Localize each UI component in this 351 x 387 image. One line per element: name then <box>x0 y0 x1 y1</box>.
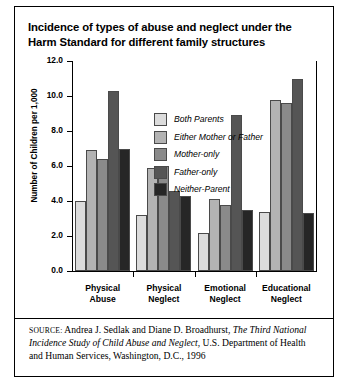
legend-label: Both Parents <box>174 114 224 124</box>
bar <box>303 213 314 271</box>
bar <box>242 210 253 271</box>
y-axis-tick-label: 6.0 <box>51 160 63 170</box>
bar <box>136 215 147 271</box>
legend-item: Either Mother or Father <box>154 130 304 148</box>
legend: Both ParentsEither Mother or FatherMothe… <box>154 112 304 200</box>
bar <box>119 149 130 272</box>
x-axis-category-line: Physical <box>133 283 194 294</box>
group-separator-tick <box>195 271 196 277</box>
group-separator-tick <box>256 271 257 277</box>
legend-label: Mother-only <box>174 149 219 159</box>
bar <box>86 150 97 271</box>
y-axis-tick-label: 0.0 <box>51 265 63 275</box>
legend-swatch <box>154 148 167 161</box>
bar <box>198 233 209 272</box>
legend-item: Father-only <box>154 165 304 183</box>
x-axis-category-label: EducationalNeglect <box>256 283 317 305</box>
x-axis-category-line: Educational <box>256 283 317 294</box>
legend-swatch <box>154 166 167 179</box>
y-axis-tick: 10.0 <box>15 96 72 97</box>
x-axis-category-line: Neglect <box>195 294 256 305</box>
bar <box>75 201 86 271</box>
figure-frame: Incidence of types of abuse and neglect … <box>14 6 334 377</box>
x-axis-category-label: EmotionalNeglect <box>195 283 256 305</box>
y-axis-tick: 6.0 <box>15 166 72 167</box>
y-axis-tick: 2.0 <box>15 236 72 237</box>
x-axis-category-line: Emotional <box>195 283 256 294</box>
y-axis-tick: 4.0 <box>15 201 72 202</box>
y-axis-tick: 0.0 <box>15 271 72 272</box>
source-divider <box>15 318 333 319</box>
y-axis-tick-label: 12.0 <box>47 55 63 65</box>
legend-item: Both Parents <box>154 112 304 130</box>
legend-swatch <box>154 113 167 126</box>
source-kicker: SOURCE: <box>29 326 62 335</box>
y-axis-tick-label: 2.0 <box>51 230 63 240</box>
y-axis-tick-label: 4.0 <box>51 195 63 205</box>
y-axis-tick-label: 10.0 <box>47 90 63 100</box>
x-axis-category-line: Neglect <box>133 294 194 305</box>
bar <box>108 91 119 271</box>
bar <box>180 196 191 271</box>
legend-label: Neither-Parent <box>174 184 230 194</box>
y-axis-tick: 12.0 <box>15 61 72 62</box>
plot-wrapper: Number of Children per 1,000 0.02.04.06.… <box>15 55 333 303</box>
legend-label: Father-only <box>174 167 217 177</box>
y-axis-tick: 8.0 <box>15 131 72 132</box>
source-authors: Andrea J. Sedlak and Diane D. Broadhurst… <box>62 324 232 335</box>
chart-title: Incidence of types of abuse and neglect … <box>28 20 318 49</box>
bar <box>259 212 270 272</box>
bar <box>97 159 108 271</box>
bar <box>169 191 180 272</box>
x-axis-category-line: Abuse <box>72 294 133 305</box>
x-axis-category-label: PhysicalNeglect <box>133 283 194 305</box>
bar <box>220 205 231 272</box>
y-axis-tick-label: 8.0 <box>51 125 63 135</box>
group-separator-tick <box>133 271 134 277</box>
x-axis-category-line: Neglect <box>256 294 317 305</box>
legend-swatch <box>154 183 167 196</box>
source-note: SOURCE: Andrea J. Sedlak and Diane D. Br… <box>29 324 319 362</box>
legend-item: Mother-only <box>154 147 304 165</box>
bar <box>209 199 220 271</box>
x-axis-category-line: Physical <box>72 283 133 294</box>
legend-label: Either Mother or Father <box>174 132 263 142</box>
legend-item: Neither-Parent <box>154 182 304 200</box>
legend-swatch <box>154 131 167 144</box>
x-axis-category-label: PhysicalAbuse <box>72 283 133 305</box>
bar-group <box>72 61 133 271</box>
